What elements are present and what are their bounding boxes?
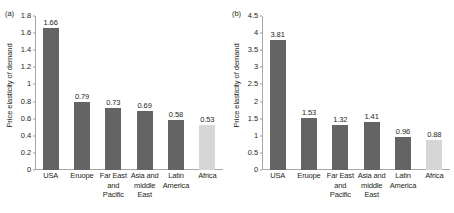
- y-tick-label: 4.5: [248, 12, 258, 20]
- y-tick-label: 0.2: [21, 149, 31, 157]
- bar[interactable]: 0.96: [395, 137, 411, 170]
- plot-canvas-a: 1.660.790.730.690.580.53: [35, 16, 223, 170]
- y-tick-label: 0.5: [248, 149, 258, 157]
- plot-area-b: 4.543.532.521.510.50 3.811.531.321.410.9…: [243, 16, 450, 170]
- x-category-label-line: Pacific: [98, 190, 129, 200]
- bar-value-label: 1.41: [365, 113, 379, 121]
- x-category-label-line: Asia and: [129, 171, 160, 181]
- x-category-label-line: Eruope: [66, 171, 97, 181]
- y-tick-label: 3.5: [248, 46, 258, 54]
- x-category-label-line: middle: [356, 181, 387, 191]
- x-category-label-line: America: [160, 181, 191, 191]
- bar-value-label: 0.58: [169, 111, 183, 119]
- bar[interactable]: 1.41: [364, 122, 380, 170]
- x-category-label: Africa: [419, 171, 450, 200]
- x-axis-category-labels-a: USAEruopeFar EastandPacificAsia andmiddl…: [35, 171, 223, 200]
- bar[interactable]: 1.66: [43, 28, 59, 170]
- x-category-label-line: Latin: [160, 171, 191, 181]
- bar-slot: 0.96: [387, 16, 418, 170]
- plot-canvas-b: 3.811.531.321.410.960.88: [262, 16, 450, 170]
- y-tick-label: 1.5: [248, 115, 258, 123]
- x-category-label-line: Asia and: [356, 171, 387, 181]
- y-axis-title-text-b: Price elasticity of demand: [232, 43, 241, 127]
- y-axis-title-b: Price elasticity of demand: [229, 0, 243, 170]
- y-axis-ticks-b: 4.543.532.521.510.50: [243, 16, 260, 170]
- bar-slot: 1.41: [356, 16, 387, 170]
- bar[interactable]: 0.79: [74, 102, 90, 170]
- bar[interactable]: 3.81: [270, 40, 286, 170]
- bar-slot: 3.81: [262, 16, 293, 170]
- y-tick-label: 0: [254, 166, 258, 174]
- y-tick-label: 0.6: [21, 115, 31, 123]
- x-category-label-line: Africa: [419, 171, 450, 181]
- bar[interactable]: 1.32: [332, 125, 348, 170]
- y-tick-label: 0: [27, 166, 31, 174]
- y-tick-label: 2.5: [248, 81, 258, 89]
- y-axis-ticks-a: 1.81.61.41.210.80.60.40.20: [16, 16, 33, 170]
- bar-series-b: 3.811.531.321.410.960.88: [262, 16, 450, 170]
- x-category-label: Africa: [192, 171, 223, 200]
- y-tick-label: 1.6: [21, 29, 31, 37]
- y-tick-label: 0.8: [21, 98, 31, 106]
- x-category-label-line: and: [325, 181, 356, 191]
- x-category-label-line: USA: [35, 171, 66, 181]
- y-tick-label: 1.8: [21, 12, 31, 20]
- x-category-label: Far EastandPacific: [98, 171, 129, 200]
- x-axis-category-labels-b: USAEruopeFar EastandPacificAsia andmiddl…: [262, 171, 450, 200]
- x-category-label-line: Far East: [98, 171, 129, 181]
- y-tick-label: 1: [254, 132, 258, 140]
- bar-value-label: 0.53: [200, 116, 214, 124]
- bar-slot: 0.69: [129, 16, 160, 170]
- bar-value-label: 0.79: [75, 93, 89, 101]
- x-category-label: USA: [262, 171, 293, 200]
- x-category-label: USA: [35, 171, 66, 200]
- bar-slot: 1.32: [325, 16, 356, 170]
- x-category-label: Asia andmiddleEast: [129, 171, 160, 200]
- bar-value-label: 0.73: [106, 99, 120, 107]
- bar-value-label: 0.96: [396, 128, 410, 136]
- bar-value-label: 3.81: [271, 31, 285, 39]
- x-category-label-line: America: [387, 181, 418, 191]
- x-category-label-line: middle: [129, 181, 160, 191]
- bar-value-label: 0.88: [427, 131, 441, 139]
- bar[interactable]: 0.53: [199, 125, 215, 170]
- bar[interactable]: 0.88: [426, 140, 442, 170]
- bar-value-label: 1.53: [302, 109, 316, 117]
- x-category-label: LatinAmerica: [387, 171, 418, 200]
- x-category-label-line: Eruope: [293, 171, 324, 181]
- y-tick-label: 1.2: [21, 64, 31, 72]
- bar-value-label: 1.66: [44, 19, 58, 27]
- y-tick-label: 2: [254, 98, 258, 106]
- bar[interactable]: 0.58: [168, 120, 184, 170]
- y-axis-title-a: Price elasticity of demand: [2, 0, 16, 170]
- x-category-label-line: Far East: [325, 171, 356, 181]
- bar-value-label: 0.69: [138, 102, 152, 110]
- bar-slot: 1.66: [35, 16, 66, 170]
- y-axis-title-text-a: Price elasticity of demand: [5, 43, 14, 127]
- x-category-label-line: Latin: [387, 171, 418, 181]
- bar[interactable]: 0.69: [137, 111, 153, 170]
- bar-value-label: 1.32: [333, 116, 347, 124]
- bar-slot: 0.73: [98, 16, 129, 170]
- bar-slot: 1.53: [293, 16, 324, 170]
- y-tick-label: 0.4: [21, 132, 31, 140]
- x-category-label: Far EastandPacific: [325, 171, 356, 200]
- x-category-label: Eruope: [293, 171, 324, 200]
- x-category-label-line: Pacific: [325, 190, 356, 200]
- y-tick-label: 3: [254, 64, 258, 72]
- x-category-label-line: East: [356, 190, 387, 200]
- bar-slot: 0.88: [419, 16, 450, 170]
- y-tick-label: 1: [27, 81, 31, 89]
- bar-slot: 0.53: [192, 16, 223, 170]
- bar-slot: 0.58: [160, 16, 191, 170]
- x-category-label: LatinAmerica: [160, 171, 191, 200]
- x-category-label-line: Africa: [192, 171, 223, 181]
- x-category-label-line: USA: [262, 171, 293, 181]
- bar[interactable]: 1.53: [301, 118, 317, 170]
- bar[interactable]: 0.73: [105, 108, 121, 170]
- bar-series-a: 1.660.790.730.690.580.53: [35, 16, 223, 170]
- bar-slot: 0.79: [66, 16, 97, 170]
- figure-two-bar-charts: (a) Price elasticity of demand 1.81.61.4…: [0, 0, 454, 213]
- x-category-label: Eruope: [66, 171, 97, 200]
- chart-panel-a: (a) Price elasticity of demand 1.81.61.4…: [0, 0, 227, 213]
